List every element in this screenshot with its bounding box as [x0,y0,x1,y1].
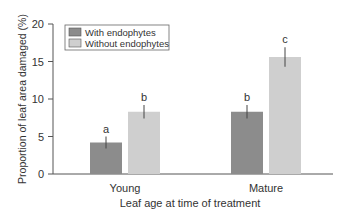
y-axis-label: Proportion of leaf area damaged (%) [16,14,28,184]
bar [269,57,301,174]
bar-chart: 05101520Proportion of leaf area damaged … [0,0,351,213]
y-tick-label: 0 [38,168,44,180]
x-tick-label: Young [110,182,141,194]
legend-label: With endophytes [85,27,156,38]
significance-letter: c [282,33,288,45]
y-tick-label: 10 [32,93,44,105]
chart: 05101520Proportion of leaf area damaged … [0,0,351,213]
significance-letter: a [103,123,110,135]
legend-label: Without endophytes [85,38,169,49]
significance-letter: b [141,91,147,103]
legend-swatch [69,28,81,36]
x-axis-label: Leaf age at time of treatment [120,197,261,209]
y-tick-label: 20 [32,18,44,30]
legend-swatch [69,39,81,47]
y-tick-label: 15 [32,56,44,68]
y-tick-label: 5 [38,131,44,143]
bar [128,112,160,174]
bar [231,112,263,174]
significance-letter: b [244,91,250,103]
x-tick-label: Mature [249,182,283,194]
